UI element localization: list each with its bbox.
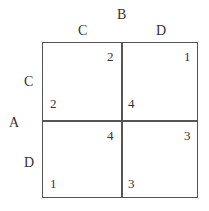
column-strategy-d-label: D — [156, 24, 166, 38]
column-player-label: B — [117, 8, 126, 22]
payoff-cd-row: 4 — [128, 97, 135, 110]
payoff-dd-row: 3 — [128, 177, 135, 190]
row-strategy-d-label: D — [24, 156, 34, 170]
row-player-label: A — [9, 116, 19, 130]
matrix-horizontal-divider — [42, 120, 198, 122]
payoff-dc-column: 4 — [107, 129, 114, 142]
column-strategy-c-label: C — [78, 24, 87, 38]
payoff-cd-column: 1 — [184, 50, 191, 63]
row-strategy-c-label: C — [24, 75, 33, 89]
payoff-cc-column: 2 — [107, 50, 114, 63]
payoff-dc-row: 1 — [50, 177, 57, 190]
payoff-cc-row: 2 — [50, 97, 57, 110]
payoff-dd-column: 3 — [184, 129, 191, 142]
